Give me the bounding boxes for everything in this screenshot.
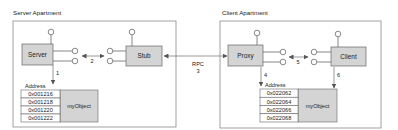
rpc-step-label: 3 [196, 68, 199, 74]
step-5-label: 5 [296, 59, 299, 65]
proxy-label: Proxy [237, 52, 254, 60]
address-cell: 0x022066 [267, 107, 292, 113]
address-cell: 0x001218 [28, 99, 53, 105]
client-apartment-title: Client Apartment [222, 9, 268, 16]
server-apartment-title: Server Apartment [13, 9, 61, 16]
step-6-label: 6 [337, 72, 340, 78]
interface-lollipop-icon [335, 31, 341, 37]
client-label: Client [340, 53, 357, 60]
step-2-label: 2 [90, 58, 93, 64]
interface-lollipop-icon [48, 29, 54, 35]
server-memory-table: myObject 0x001216 0x001218 0x001220 0x00… [21, 90, 98, 122]
client-apartment: Client Apartment Proxy 5 Client [220, 9, 381, 128]
server-label: Server [28, 51, 48, 58]
server-address-header: Address [25, 83, 46, 89]
stub-label: Stub [137, 52, 151, 59]
interface-lollipop-icon [72, 48, 78, 54]
proxy-component: Proxy [228, 30, 286, 66]
interface-lollipop-icon [311, 49, 317, 55]
server-component: Server [22, 29, 78, 65]
interface-lollipop-icon [311, 59, 317, 65]
rpc-label: RPC [192, 61, 204, 67]
step-4-label: 4 [264, 72, 267, 78]
com-apartment-diagram: Server Apartment Server 2 Stub [0, 0, 398, 130]
address-cell: 0x001222 [28, 115, 53, 121]
interface-lollipop-icon [107, 58, 113, 64]
stub-component: Stub [107, 29, 162, 66]
interface-lollipop-icon [129, 29, 135, 35]
interface-lollipop-icon [280, 59, 286, 65]
address-cell: 0x022064 [267, 99, 292, 105]
client-component: Client [311, 31, 366, 66]
interface-lollipop-icon [107, 48, 113, 54]
address-cell: 0x022062 [267, 90, 292, 96]
client-memory-table: myObject 0x022062 0x022064 0x022066 0x02… [260, 89, 337, 122]
interface-lollipop-icon [280, 49, 286, 55]
address-cell: 0x022068 [267, 115, 292, 121]
interface-lollipop-icon [254, 30, 260, 36]
client-object-label: myObject [306, 103, 330, 109]
interface-lollipop-icon [72, 58, 78, 64]
client-address-header: Address [265, 82, 286, 88]
rpc-connection: RPC 3 [164, 56, 227, 74]
address-cell: 0x001216 [28, 91, 53, 97]
server-object-label: myObject [67, 103, 91, 109]
address-cell: 0x001220 [28, 107, 53, 113]
step-1-label: 1 [56, 70, 59, 76]
server-apartment: Server Apartment Server 2 Stub [13, 9, 176, 127]
